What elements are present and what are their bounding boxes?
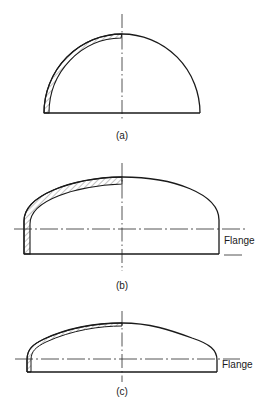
wall-section-c xyxy=(27,323,122,372)
caption-a: (a) xyxy=(116,130,128,141)
flange-label-b: Flange xyxy=(224,235,255,246)
panel-c-torispherical-head: Flange (c) xyxy=(15,311,253,397)
vessel-heads-diagram: (a) Flange (b) Flange (c) xyxy=(0,0,266,411)
panel-a-hemispherical-head: (a) xyxy=(44,14,200,141)
wall-section-b xyxy=(24,177,122,254)
caption-b: (b) xyxy=(116,280,128,291)
head-outline-b xyxy=(24,177,219,254)
wall-section-a xyxy=(44,34,122,113)
panel-b-ellipsoidal-head: Flange (b) xyxy=(14,163,255,291)
flange-label-c: Flange xyxy=(222,359,253,370)
caption-c: (c) xyxy=(116,386,128,397)
